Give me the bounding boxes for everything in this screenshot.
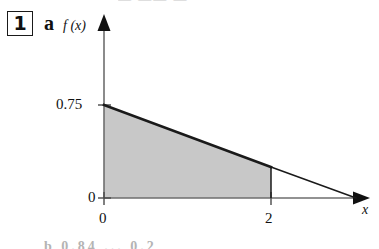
cropped-bottom-text: b 0.84 ... 0.2 (44, 239, 274, 249)
shaded-area (104, 105, 271, 198)
function-line-extension (271, 167, 356, 198)
y-axis-arrowhead (98, 14, 111, 31)
